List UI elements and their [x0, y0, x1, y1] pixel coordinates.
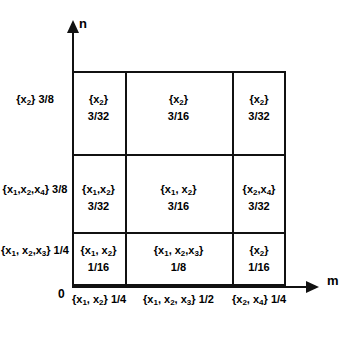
bottom-label-value: 1/4: [111, 293, 126, 305]
grid-line-bottom: [72, 284, 286, 286]
cell-value: 1/16: [72, 260, 125, 275]
cell-set: {x2}: [232, 92, 286, 109]
bottom-label-col-1: {x1, x2} 1/4: [72, 292, 125, 309]
origin-label: 0: [58, 288, 65, 300]
cell-set: {x2,x4}: [232, 182, 286, 199]
grid-line-horizontal-1: [72, 154, 286, 156]
bottom-label-value: 1/4: [271, 293, 286, 305]
cell-row-bottom-col-3: {x2} 1/16: [232, 243, 286, 275]
m-axis-label: m: [327, 274, 339, 287]
cell-row-middle-col-2: {x1, x2} 3/16: [125, 182, 232, 214]
side-label-bottom-set: {x1, x2,x3}: [1, 244, 50, 256]
side-label-top-set: {x2}: [16, 93, 35, 105]
cell-set: {x2}: [125, 92, 232, 109]
grid-line-horizontal-2: [72, 232, 286, 234]
cell-row-middle-col-3: {x2,x4} 3/32: [232, 182, 286, 214]
bottom-label-col-3: {x2, x4} 1/4: [232, 292, 286, 309]
n-axis-label: n: [79, 17, 87, 30]
cell-value: 3/32: [232, 199, 286, 214]
side-label-middle: {x1,x2,x4} 3/8: [0, 182, 70, 199]
cell-value: 3/16: [125, 199, 232, 214]
bottom-label-set: {x1, x2}: [72, 293, 108, 305]
cell-set: {x1, x2,x3}: [125, 243, 232, 260]
cell-row-bottom-col-2: {x1, x2,x3} 1/8: [125, 243, 232, 275]
cell-row-bottom-col-1: {x1, x2} 1/16: [72, 243, 125, 275]
grid-line-top: [72, 71, 286, 73]
cell-value: 3/32: [72, 199, 125, 214]
bottom-label-col-2: {x1, x2, x3} 1/2: [125, 292, 232, 309]
side-label-middle-set: {x1,x2,x4}: [3, 183, 49, 195]
side-label-middle-value: 3/8: [52, 183, 67, 195]
cell-set: {x1, x2}: [125, 182, 232, 199]
side-label-bottom-value: 1/4: [54, 244, 69, 256]
cell-set: {x1,x2}: [72, 182, 125, 199]
m-axis-arrow-icon: [306, 281, 319, 293]
probability-grid-diagram: n m 0 {x2} 3/8 {x1,x2,x4} 3/8 {x1, x2,x3…: [0, 0, 356, 338]
cell-set: {x1, x2}: [72, 243, 125, 260]
cell-row-middle-col-1: {x1,x2} 3/32: [72, 182, 125, 214]
side-label-top-value: 3/8: [38, 93, 53, 105]
cell-set: {x2}: [72, 92, 125, 109]
cell-value: 3/32: [232, 109, 286, 124]
side-label-bottom: {x1, x2,x3} 1/4: [0, 243, 70, 260]
cell-row-top-col-1: {x2} 3/32: [72, 92, 125, 124]
cell-value: 3/32: [72, 109, 125, 124]
cell-set: {x2}: [232, 243, 286, 260]
cell-row-top-col-2: {x2} 3/16: [125, 92, 232, 124]
cell-value: 1/16: [232, 260, 286, 275]
cell-value: 1/8: [125, 260, 232, 275]
bottom-label-value: 1/2: [199, 293, 214, 305]
n-axis-arrow-icon: [67, 20, 79, 33]
bottom-label-set: {x2, x4}: [232, 293, 268, 305]
cell-row-top-col-3: {x2} 3/32: [232, 92, 286, 124]
m-axis-line: [72, 286, 312, 288]
side-label-top: {x2} 3/8: [0, 92, 70, 109]
cell-value: 3/16: [125, 109, 232, 124]
bottom-label-set: {x1, x2, x3}: [143, 293, 196, 305]
